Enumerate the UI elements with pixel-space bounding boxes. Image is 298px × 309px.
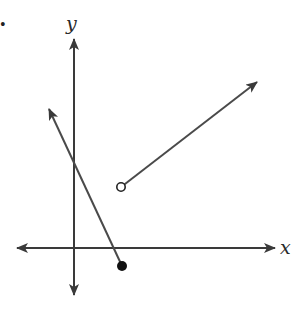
ray-from-closed-point <box>49 109 122 266</box>
y-axis-label: y <box>65 12 77 34</box>
open-endpoint <box>117 183 125 191</box>
ray-from-open-point <box>124 82 257 185</box>
graph-figure: • y x <box>0 0 298 309</box>
x-axis-label: x <box>280 236 291 258</box>
closed-endpoint <box>117 261 127 271</box>
list-bullet: • <box>0 16 6 33</box>
